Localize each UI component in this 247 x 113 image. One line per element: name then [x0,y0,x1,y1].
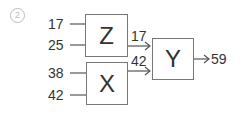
z-output-value: 17 [131,29,147,43]
gate-x-label: X [99,70,115,98]
x-input-1: 38 [48,66,64,80]
x-output-value: 42 [131,54,147,68]
gate-x: X [86,62,128,105]
x-input-2: 42 [48,88,64,102]
gate-y: Y [152,38,194,80]
z-input-1: 17 [48,17,64,31]
z-input-2: 25 [48,38,64,52]
gate-z: Z [85,14,128,57]
gate-y-label: Y [165,45,181,73]
gate-z-label: Z [99,22,114,50]
y-output-value: 59 [211,52,227,66]
